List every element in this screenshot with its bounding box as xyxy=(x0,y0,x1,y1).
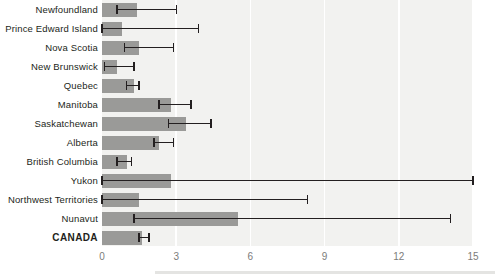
error-bar-line xyxy=(102,180,473,181)
chart-row: Manitoba xyxy=(0,95,498,114)
category-label: British Columbia xyxy=(26,152,98,171)
chart-rows: NewfoundlandPrince Edward IslandNova Sco… xyxy=(0,0,498,246)
error-bar-cap-low xyxy=(126,81,127,90)
chart-row: Prince Edward Island xyxy=(0,19,498,38)
chart-row: New Brunswick xyxy=(0,57,498,76)
error-bar-cap-low xyxy=(153,138,154,147)
chart-row: Newfoundland xyxy=(0,0,498,19)
category-label: Nunavut xyxy=(62,209,98,228)
category-label: Manitoba xyxy=(58,95,98,114)
category-label: Northwest Territories xyxy=(8,190,98,209)
bar xyxy=(102,231,142,245)
x-tick-label: 3 xyxy=(173,251,179,262)
x-tick-label: 15 xyxy=(467,251,478,262)
category-label: Yukon xyxy=(71,171,98,190)
axis-underbar xyxy=(155,271,495,274)
category-label: Prince Edward Island xyxy=(5,19,98,38)
error-bar-line xyxy=(154,142,174,143)
error-bar-line xyxy=(169,123,211,124)
error-bar-cap-low xyxy=(168,119,169,128)
error-bar-cap-low xyxy=(116,5,117,14)
error-bar-line xyxy=(159,104,191,105)
error-bar-line xyxy=(134,218,451,219)
category-label: New Brunswick xyxy=(31,57,98,76)
category-label: Newfoundland xyxy=(35,0,98,19)
category-label: Nova Scotia xyxy=(45,38,98,57)
error-bar-cap-low xyxy=(116,157,117,166)
error-bar-cap-low xyxy=(138,233,139,242)
error-bar-cap-low xyxy=(101,24,102,33)
error-bar-line xyxy=(117,161,132,162)
error-bar-cap-low xyxy=(101,176,102,185)
chart-row: Yukon xyxy=(0,171,498,190)
error-bar-cap-low xyxy=(104,62,105,71)
error-bar-cap-low xyxy=(158,100,159,109)
x-tick-label: 12 xyxy=(393,251,404,262)
error-bar-line xyxy=(124,47,173,48)
error-bar-cap-low xyxy=(101,195,102,204)
chart-row: Nunavut xyxy=(0,209,498,228)
error-bar-cap-high xyxy=(198,24,199,33)
chart-row: Saskatchewan xyxy=(0,114,498,133)
error-bar-line xyxy=(104,66,134,67)
error-bar-cap-low xyxy=(124,43,125,52)
error-bar-line xyxy=(127,85,139,86)
chart-row: CANADA xyxy=(0,228,498,247)
category-label: CANADA xyxy=(52,228,98,247)
bar xyxy=(102,136,159,150)
x-axis: 03691215 xyxy=(0,246,498,275)
error-bar-cap-high xyxy=(148,233,149,242)
error-bar-cap-high xyxy=(210,119,211,128)
x-tick-label: 0 xyxy=(99,251,105,262)
chart-row: Nova Scotia xyxy=(0,38,498,57)
x-tick-label: 6 xyxy=(248,251,254,262)
error-bar-cap-high xyxy=(176,5,177,14)
error-bar-cap-high xyxy=(138,81,139,90)
error-bar-cap-high xyxy=(307,195,308,204)
error-bar-line xyxy=(102,199,307,200)
category-label: Saskatchewan xyxy=(34,114,98,133)
chart-row: Quebec xyxy=(0,76,498,95)
category-label: Quebec xyxy=(64,76,98,95)
chart-row: British Columbia xyxy=(0,152,498,171)
error-bar-line xyxy=(117,9,176,10)
error-bar-cap-low xyxy=(133,214,134,223)
bar-chart: NewfoundlandPrince Edward IslandNova Sco… xyxy=(0,0,498,275)
error-bar-cap-high xyxy=(173,43,174,52)
error-bar-line xyxy=(102,28,198,29)
chart-row: Northwest Territories xyxy=(0,190,498,209)
chart-row: Alberta xyxy=(0,133,498,152)
error-bar-cap-high xyxy=(190,100,191,109)
error-bar-cap-high xyxy=(131,157,132,166)
category-label: Alberta xyxy=(67,133,98,152)
error-bar-cap-high xyxy=(133,62,134,71)
x-tick-label: 9 xyxy=(322,251,328,262)
error-bar-cap-high xyxy=(472,176,473,185)
error-bar-cap-high xyxy=(450,214,451,223)
error-bar-cap-high xyxy=(173,138,174,147)
